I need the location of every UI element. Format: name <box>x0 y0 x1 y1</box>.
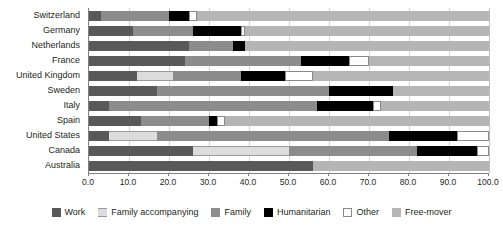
bar-segment <box>141 116 209 126</box>
bar-segment <box>417 146 477 156</box>
swatch-work-icon <box>52 208 61 217</box>
category-label: Germany <box>0 26 80 35</box>
bar-segment <box>173 71 241 81</box>
bar-row <box>89 86 489 96</box>
x-axis-tick <box>168 173 169 176</box>
category-label: United Kingdom <box>0 71 80 80</box>
bar-segment <box>109 131 157 141</box>
legend-item[interactable]: Free-mover <box>392 207 452 217</box>
bar-segment <box>89 116 141 126</box>
bar-segment <box>89 131 109 141</box>
bar-segment <box>233 41 245 51</box>
legend-item[interactable]: Other <box>343 207 379 217</box>
x-axis-tick-label: 90.0 <box>428 177 468 187</box>
swatch-family-accompanying-icon <box>98 208 107 217</box>
bar-segment <box>89 26 133 36</box>
bar-row <box>89 146 489 156</box>
x-axis-tick-label: 0.0 <box>68 177 108 187</box>
bar-segment <box>245 41 489 51</box>
plot-wrapper: SwitzerlandGermanyNetherlandsFranceUnite… <box>0 0 503 196</box>
bar-segment <box>197 11 489 21</box>
bar-segment <box>89 11 101 21</box>
bar-row <box>89 56 489 66</box>
category-label: United States <box>0 131 80 140</box>
bar-segment <box>477 146 489 156</box>
x-axis-tick <box>368 173 369 176</box>
category-axis-labels: SwitzerlandGermanyNetherlandsFranceUnite… <box>0 8 84 173</box>
bar-segment <box>313 71 489 81</box>
bar-segment <box>137 71 173 81</box>
legend-item[interactable]: Family accompanying <box>98 207 198 217</box>
bar-row <box>89 11 489 21</box>
x-axis-tick-label: 40.0 <box>228 177 268 187</box>
category-label: Sweden <box>0 86 80 95</box>
bar-segment <box>393 86 489 96</box>
bar-segment <box>157 131 389 141</box>
bar-segment <box>241 71 285 81</box>
x-axis-tick-label: 70.0 <box>348 177 388 187</box>
category-label: Australia <box>0 161 80 170</box>
bar-segment <box>89 161 313 171</box>
swatch-family-icon <box>211 208 220 217</box>
legend-label: Free-mover <box>405 207 452 217</box>
bar-segment <box>209 116 217 126</box>
swatch-humanitarian-icon <box>264 208 273 217</box>
bar-segment <box>217 116 225 126</box>
legend-label: Family <box>224 207 251 217</box>
legend-label: Family accompanying <box>111 207 198 217</box>
bar-segment <box>373 101 381 111</box>
swatch-other-icon <box>343 208 352 217</box>
chart-legend: WorkFamily accompanyingFamilyHumanitaria… <box>0 203 503 221</box>
bar-row <box>89 71 489 81</box>
x-axis-tick-label: 20.0 <box>148 177 188 187</box>
x-axis-tick <box>128 173 129 176</box>
bar-segment <box>101 11 169 21</box>
bar-row <box>89 131 489 141</box>
legend-label: Humanitarian <box>277 207 331 217</box>
bar-segment <box>89 56 185 66</box>
bar-segment <box>169 11 189 21</box>
x-axis-tick <box>248 173 249 176</box>
bar-segment <box>109 101 317 111</box>
x-axis-tick-label: 80.0 <box>388 177 428 187</box>
legend-label: Other <box>356 207 379 217</box>
bar-segment <box>193 146 289 156</box>
legend-item[interactable]: Humanitarian <box>264 207 331 217</box>
category-label: France <box>0 56 80 65</box>
bar-segment <box>369 56 489 66</box>
bar-segment <box>89 146 193 156</box>
category-label: Italy <box>0 101 80 110</box>
bar-segment <box>189 11 197 21</box>
bar-segment <box>89 71 137 81</box>
bar-segment <box>285 71 313 81</box>
bar-segment <box>289 146 417 156</box>
x-axis-tick-label: 30.0 <box>188 177 228 187</box>
legend-item[interactable]: Family <box>211 207 251 217</box>
bar-row <box>89 41 489 51</box>
x-axis-tick-labels: 0.010.020.030.040.050.060.070.080.090.01… <box>0 177 503 189</box>
bar-segment <box>185 56 301 66</box>
bar-row <box>89 116 489 126</box>
gridline <box>489 8 490 173</box>
bar-segment <box>157 86 329 96</box>
bar-row <box>89 161 489 171</box>
stacked-bar-chart: SwitzerlandGermanyNetherlandsFranceUnite… <box>0 0 503 232</box>
bar-segment <box>301 56 349 66</box>
plot-area <box>88 8 489 173</box>
bar-row <box>89 101 489 111</box>
bar-segment <box>89 86 157 96</box>
swatch-free-mover-icon <box>392 208 401 217</box>
x-axis-tick <box>328 173 329 176</box>
x-axis-tick <box>448 173 449 176</box>
bar-segment <box>245 26 489 36</box>
bar-segment <box>133 26 193 36</box>
bar-segment <box>189 41 233 51</box>
category-label: Spain <box>0 116 80 125</box>
x-axis-tick <box>408 173 409 176</box>
legend-item[interactable]: Work <box>52 207 86 217</box>
bar-segment <box>381 101 489 111</box>
bar-segment <box>329 86 393 96</box>
bar-segment <box>349 56 369 66</box>
category-label: Switzerland <box>0 11 80 20</box>
x-axis-tick-label: 50.0 <box>268 177 308 187</box>
